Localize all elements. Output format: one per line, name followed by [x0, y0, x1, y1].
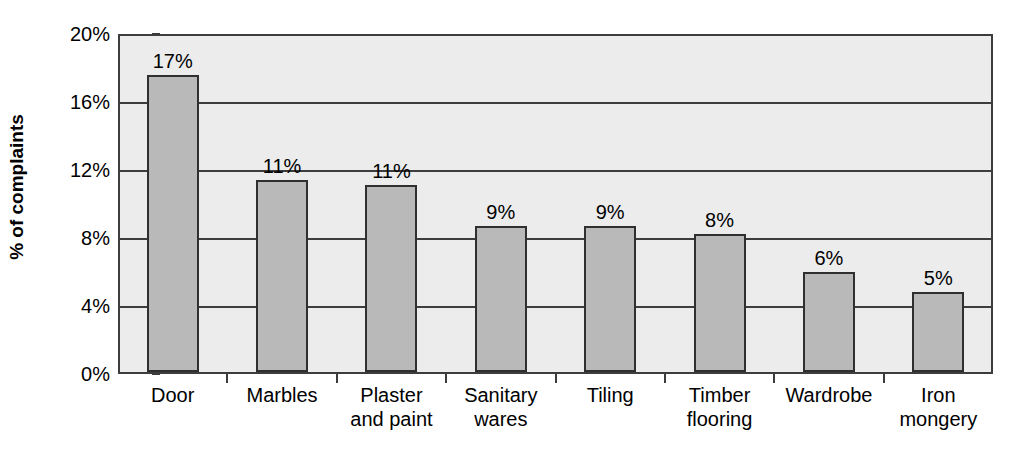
y-axis-tick-labels: 0%4%8%12%16%20% — [40, 0, 110, 452]
bar — [147, 75, 199, 373]
bar-value-label: 11% — [237, 156, 327, 176]
bar — [694, 234, 746, 372]
y-axis-title: % of complaints — [0, 0, 34, 374]
x-axis-category-label: Timber flooring — [665, 384, 774, 431]
bar-chart: % of complaints 0%4%8%12%16%20% 17%11%11… — [0, 0, 1028, 452]
x-axis-category-label: Wardrobe — [774, 384, 883, 408]
y-axis-tick-label: 20% — [40, 24, 110, 44]
x-axis-tick-mark — [555, 374, 557, 383]
x-axis-tick-mark — [226, 374, 228, 383]
bar — [256, 180, 308, 372]
bar-value-label: 5% — [893, 268, 983, 288]
bar-value-label: 9% — [456, 202, 546, 222]
bar — [803, 272, 855, 372]
y-axis-tick-label: 4% — [40, 296, 110, 316]
y-axis-tick-label: 8% — [40, 228, 110, 248]
x-axis-tick-mark — [336, 374, 338, 383]
bar-value-label: 9% — [565, 202, 655, 222]
x-axis-category-label: Sanitary wares — [446, 384, 555, 431]
bar — [475, 226, 527, 372]
bar — [365, 185, 417, 372]
bar-value-label: 8% — [675, 210, 765, 230]
bar-value-label: 6% — [784, 248, 874, 268]
x-axis-category-label: Iron mongery — [884, 384, 993, 431]
bar — [584, 226, 636, 372]
x-axis-category-label: Tiling — [556, 384, 665, 408]
x-axis-tick-mark — [883, 374, 885, 383]
x-axis-tick-mark — [664, 374, 666, 383]
x-axis: DoorMarblesPlaster and paintSanitary war… — [118, 374, 993, 452]
bars-layer: 17%11%11%9%9%8%6%5% — [118, 34, 993, 374]
bar-value-label: 17% — [128, 51, 218, 71]
y-axis-title-text: % of complaints — [6, 114, 28, 260]
bar — [912, 292, 964, 372]
x-axis-category-label: Door — [118, 384, 227, 408]
x-axis-category-label: Plaster and paint — [337, 384, 446, 431]
x-axis-tick-mark — [773, 374, 775, 383]
x-axis-category-label: Marbles — [227, 384, 336, 408]
bar-value-label: 11% — [346, 161, 436, 181]
y-axis-tick-label: 16% — [40, 92, 110, 112]
y-axis-tick-label: 0% — [40, 364, 110, 384]
y-axis-tick-label: 12% — [40, 160, 110, 180]
x-axis-tick-mark — [445, 374, 447, 383]
